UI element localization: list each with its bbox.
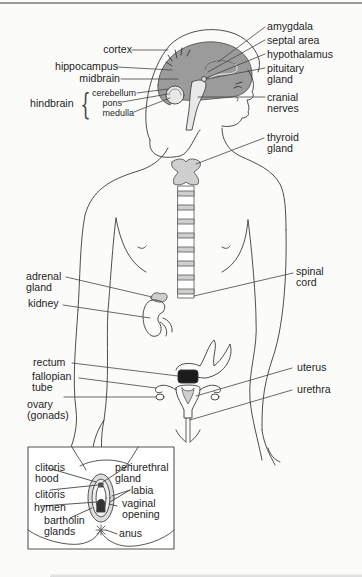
label-hindbrain: hindbrain — [30, 98, 74, 109]
label-hymen: hymen — [34, 502, 66, 513]
pituitary — [202, 77, 207, 82]
thyroid — [172, 159, 201, 185]
rectum — [178, 370, 198, 383]
ovary-left — [156, 394, 164, 400]
label-uterus: uterus — [297, 362, 326, 373]
label-spinal-cord-2: cord — [296, 277, 317, 288]
spine — [178, 186, 194, 298]
anatomy-diagram: cortex hippocampus midbrain hindbrain { … — [0, 0, 362, 577]
label-urethra: urethra — [297, 384, 331, 395]
label-rectum: rectum — [33, 357, 65, 368]
label-thyroid-gland-2: gland — [267, 143, 293, 154]
torso-right — [262, 230, 286, 430]
urethra — [186, 418, 190, 442]
label-clitoris-hood-2: hood — [35, 473, 59, 484]
kidney — [143, 300, 165, 336]
label-cerebellum: cerebellum — [84, 88, 136, 98]
label-ovary-2: (gonads) — [27, 410, 69, 421]
label-hypothalamus: hypothalamus — [267, 49, 333, 60]
label-clitoris: clitoris — [35, 489, 65, 500]
label-midbrain: midbrain — [60, 73, 120, 84]
label-hippocampus: hippocampus — [40, 61, 118, 72]
label-pons: pons — [84, 98, 122, 108]
ovary-right — [211, 394, 219, 400]
label-amygdala: amygdala — [267, 21, 313, 32]
label-cortex: cortex — [74, 44, 132, 55]
label-kidney: kidney — [28, 298, 59, 309]
label-pituitary-gland-2: gland — [267, 74, 293, 85]
label-cranial-nerves-2: nerves — [267, 103, 299, 114]
arm-right-inner — [248, 220, 262, 460]
label-adrenal-gland-2: gland — [26, 282, 52, 293]
label-medulla: medulla — [84, 108, 134, 118]
fallopian-tube-left — [155, 385, 176, 393]
breast-left — [116, 218, 146, 272]
label-vaginal-opening-2: opening — [122, 509, 160, 520]
label-anus: anus — [119, 528, 142, 539]
neck-left — [78, 148, 168, 310]
label-septal-area: septal area — [267, 35, 319, 46]
label-fallopian-tube-2: tube — [32, 382, 53, 393]
arm-left-inner — [102, 218, 117, 460]
label-labia: labia — [131, 485, 153, 496]
label-bartholin-glands-2: glands — [44, 526, 75, 537]
label-periurethral-gland-2: gland — [115, 473, 141, 484]
breast-right — [222, 220, 248, 272]
